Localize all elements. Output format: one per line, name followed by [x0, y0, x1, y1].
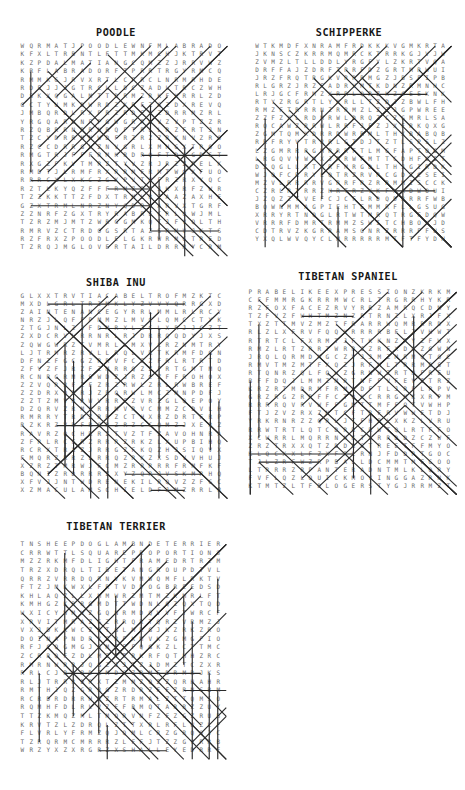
- grid-letter: T: [129, 227, 137, 235]
- grid-letter: V: [418, 401, 426, 409]
- grid-letter: D: [392, 450, 400, 458]
- grid-letter: B: [205, 686, 213, 695]
- grid-letter: T: [69, 193, 77, 201]
- grid-letter: R: [409, 361, 417, 369]
- grid-letter: Z: [435, 482, 443, 490]
- grid-letter: Q: [61, 389, 69, 397]
- grid-letter: V: [418, 328, 426, 336]
- grid-letter: P: [431, 74, 439, 82]
- grid-letter: G: [35, 324, 43, 332]
- grid-letter: Q: [269, 171, 277, 179]
- grid-letter: L: [349, 450, 357, 458]
- grid-letter: R: [261, 219, 269, 227]
- grid-letter: R: [112, 324, 120, 332]
- grid-letter: K: [198, 227, 206, 235]
- grid-letter: M: [52, 712, 60, 721]
- grid-letter: R: [358, 131, 366, 139]
- grid-letter: V: [35, 720, 43, 729]
- grid-letter: R: [272, 401, 280, 409]
- grid-letter: O: [332, 482, 340, 490]
- grid-letter: V: [294, 155, 302, 163]
- grid-letter: D: [401, 345, 409, 353]
- grid-letter: F: [27, 50, 35, 58]
- grid-letter: J: [27, 349, 35, 357]
- grid-letter: Y: [444, 304, 452, 312]
- grid-letter: A: [103, 549, 111, 558]
- grid-letter: F: [121, 126, 129, 134]
- grid-letter: Q: [269, 195, 277, 203]
- grid-letter: R: [366, 426, 374, 434]
- grid-letter: G: [61, 643, 69, 652]
- grid-letter: T: [246, 320, 254, 328]
- grid-letter: R: [120, 617, 128, 626]
- grid-letter: R: [78, 600, 86, 609]
- grid-letter: R: [286, 147, 294, 155]
- grid-letter: C: [44, 609, 52, 618]
- grid-letter: R: [246, 426, 254, 434]
- grid-letter: Q: [52, 92, 60, 100]
- grid-letter: G: [78, 643, 86, 652]
- grid-letter: X: [104, 168, 112, 176]
- grid-letter: R: [315, 345, 323, 353]
- grid-letter: V: [318, 179, 326, 187]
- grid-letter: Z: [155, 109, 163, 117]
- grid-letter: Z: [137, 660, 145, 669]
- grid-letter: V: [44, 227, 52, 235]
- grid-letter: J: [172, 50, 180, 58]
- grid-letter: G: [86, 600, 94, 609]
- grid-letter: W: [52, 660, 60, 669]
- grid-letter: R: [78, 126, 86, 134]
- grid-letter: W: [384, 320, 392, 328]
- grid-letter: R: [121, 227, 129, 235]
- grid-letter: R: [27, 316, 35, 324]
- grid-letter: M: [129, 609, 137, 618]
- grid-letter: G: [112, 446, 120, 454]
- grid-letter: Q: [112, 389, 120, 397]
- grid-letter: J: [52, 168, 60, 176]
- grid-letter: L: [298, 377, 306, 385]
- grid-letter: F: [95, 462, 103, 470]
- grid-letter: R: [61, 446, 69, 454]
- grid-letter: Q: [69, 566, 77, 575]
- grid-letter: D: [215, 300, 223, 308]
- grid-letter: R: [180, 540, 188, 549]
- grid-letter: R: [246, 304, 254, 312]
- grid-letter: D: [334, 82, 342, 90]
- grid-letter: Q: [44, 118, 52, 126]
- grid-letter: N: [104, 201, 112, 209]
- grid-letter: Z: [78, 193, 86, 201]
- grid-letter: G: [198, 300, 206, 308]
- grid-letter: S: [358, 442, 366, 450]
- grid-letter: L: [61, 176, 69, 184]
- grid-letter: N: [146, 600, 154, 609]
- grid-letter: W: [318, 122, 326, 130]
- grid-letter: Z: [95, 729, 103, 738]
- grid-letter: H: [418, 296, 426, 304]
- grid-letter: F: [78, 151, 86, 159]
- grid-letter: D: [439, 219, 447, 227]
- grid-letter: L: [155, 438, 163, 446]
- grid-letter: R: [375, 434, 383, 442]
- grid-letter: L: [401, 312, 409, 320]
- grid-letter: L: [35, 592, 43, 601]
- grid-letter: Q: [392, 320, 400, 328]
- grid-letter: T: [315, 442, 323, 450]
- grid-letter: G: [427, 458, 435, 466]
- grid-letter: C: [286, 90, 294, 98]
- grid-letter: C: [326, 195, 334, 203]
- grid-letter: M: [95, 341, 103, 349]
- grid-letter: R: [253, 82, 261, 90]
- grid-letter: I: [138, 478, 146, 486]
- grid-letter: R: [146, 235, 154, 243]
- grid-letter: M: [375, 401, 383, 409]
- grid-letter: Z: [324, 304, 332, 312]
- grid-letter: P: [189, 389, 197, 397]
- grid-letter: D: [189, 405, 197, 413]
- grid-letter: R: [350, 66, 358, 74]
- grid-letter: R: [138, 76, 146, 84]
- grid-letter: Y: [427, 296, 435, 304]
- grid-letter: N: [215, 349, 223, 357]
- grid-letter: K: [171, 592, 179, 601]
- grid-letter: Z: [27, 557, 35, 566]
- grid-letter: R: [341, 377, 349, 385]
